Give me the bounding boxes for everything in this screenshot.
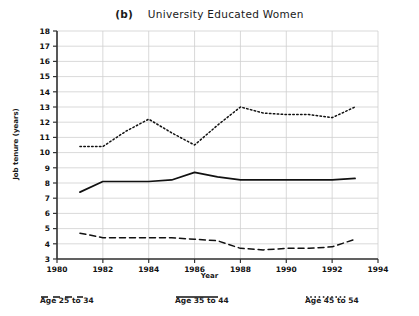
svg-text:1992: 1992 (322, 265, 343, 274)
series-line-2 (80, 172, 355, 192)
svg-text:4: 4 (45, 240, 50, 249)
svg-text:1988: 1988 (230, 265, 251, 274)
chart-container: (b) University Educated Women Job tenure… (0, 0, 419, 316)
legend-item-age-45-54: Age 45 to 54 (305, 292, 359, 308)
svg-text:1990: 1990 (276, 265, 297, 274)
svg-text:15: 15 (40, 72, 50, 81)
svg-text:10: 10 (40, 148, 50, 157)
svg-text:5: 5 (45, 224, 50, 233)
legend-swatch-dotted (305, 292, 349, 302)
series-line-1 (80, 233, 355, 250)
series-line-3 (80, 107, 355, 147)
chart-legend: Age 25 to 34 Age 35 to 44 Age 45 to 54 (0, 292, 419, 310)
svg-text:14: 14 (40, 88, 50, 97)
svg-text:1986: 1986 (184, 265, 205, 274)
svg-text:8: 8 (45, 179, 50, 188)
svg-text:1994: 1994 (368, 265, 389, 274)
legend-swatch-solid (175, 292, 219, 302)
svg-text:7: 7 (45, 194, 50, 203)
svg-text:9: 9 (45, 164, 50, 173)
svg-text:13: 13 (40, 103, 50, 112)
svg-text:1980: 1980 (47, 265, 68, 274)
svg-text:11: 11 (40, 133, 50, 142)
svg-text:6: 6 (45, 209, 50, 218)
legend-item-age-25-34: Age 25 to 34 (40, 292, 94, 308)
legend-item-age-35-44: Age 35 to 44 (175, 292, 229, 308)
svg-text:18: 18 (40, 27, 50, 36)
svg-text:3: 3 (45, 255, 50, 264)
svg-text:16: 16 (40, 57, 50, 66)
svg-text:12: 12 (40, 118, 50, 127)
svg-text:1982: 1982 (92, 265, 113, 274)
legend-swatch-dashed (40, 292, 84, 302)
plot-area: 3456789101112131415161718198019821984198… (0, 0, 419, 316)
svg-text:17: 17 (40, 42, 50, 51)
svg-text:1984: 1984 (138, 265, 159, 274)
